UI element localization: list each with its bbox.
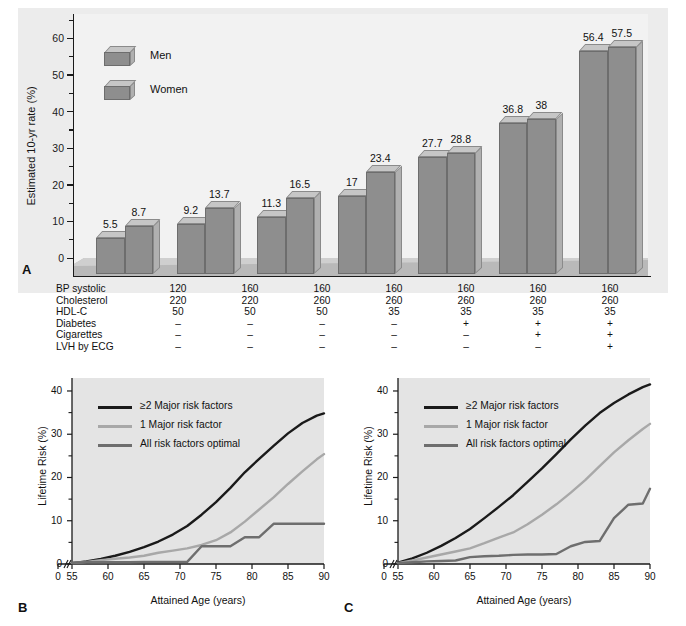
risk-factor-value: + <box>574 329 646 341</box>
table-row: BP systolic120160160160160160160 <box>56 283 646 295</box>
panel-a-y-axis-title: Estimated 10-yr rate (%) <box>25 51 37 241</box>
risk-factor-value: – <box>502 341 574 353</box>
bar-women-group-5 <box>447 153 476 274</box>
risk-factor-table-body: BP systolic120160160160160160160Choleste… <box>56 283 646 353</box>
risk-factor-value: 50 <box>142 306 214 318</box>
bar-value-label: 57.5 <box>602 27 643 39</box>
bar-men-group-2 <box>177 224 206 274</box>
risk-factor-value: 160 <box>430 283 502 295</box>
legend-label: All risk factors optimal <box>140 438 240 449</box>
legend-label-men: Men <box>150 49 171 61</box>
line-swatch-icon <box>98 444 132 447</box>
risk-factor-label: Cigarettes <box>56 329 142 341</box>
bar-women-group-3 <box>286 198 315 274</box>
bar-front <box>338 196 367 274</box>
y-tick-label: 30 <box>366 429 388 439</box>
bar-front <box>499 123 528 274</box>
risk-factor-value: 35 <box>430 306 502 318</box>
risk-factor-value: – <box>214 318 286 330</box>
y-tick-label: 30 <box>38 143 64 153</box>
bar-side-face <box>556 113 563 274</box>
bar-front <box>608 47 637 274</box>
x-tick-label: 75 <box>206 572 226 582</box>
risk-factor-value: – <box>430 329 502 341</box>
bar-women-group-2 <box>205 208 234 274</box>
panel-c-x-axis-title: Attained Age (years) <box>398 594 650 606</box>
legend-label: 1 Major risk factor <box>466 419 548 430</box>
risk-factor-value: – <box>358 318 430 330</box>
y-tick-label: 50 <box>38 70 64 80</box>
risk-factor-value: 260 <box>286 295 358 307</box>
legend-label: 1 Major risk factor <box>140 419 222 430</box>
y-tick-label: 0 <box>366 559 388 569</box>
bar-side-face <box>395 166 402 274</box>
risk-factor-value: – <box>142 329 214 341</box>
risk-factor-value: 160 <box>358 283 430 295</box>
risk-factor-value: – <box>358 341 430 353</box>
bar-value-label: 28.8 <box>441 133 482 145</box>
y-tick-minor <box>69 20 73 21</box>
bar-men-group-5 <box>418 157 447 274</box>
y-tick <box>67 74 73 75</box>
bar-side-face <box>475 146 482 274</box>
risk-factor-value: + <box>574 341 646 353</box>
line-swatch-icon <box>424 406 458 409</box>
risk-factor-value: 35 <box>574 306 646 318</box>
x-tick-label: 80 <box>568 572 588 582</box>
legend-label: ≥2 Major risk factors <box>140 400 233 411</box>
risk-factor-label: Cholesterol <box>56 295 142 307</box>
bar-value-label: 13.7 <box>199 188 240 200</box>
risk-factor-value: 120 <box>142 283 214 295</box>
bar-women-group-4 <box>366 172 395 274</box>
bar-swatch-icon <box>104 80 130 100</box>
legend-label-women: Women <box>150 83 188 95</box>
risk-factor-value: – <box>142 341 214 353</box>
bar-side-face <box>314 191 321 274</box>
y-tick-label: 40 <box>40 386 62 396</box>
y-tick-label: 60 <box>38 33 64 43</box>
x-tick-label: 70 <box>496 572 516 582</box>
risk-factor-value: 50 <box>286 306 358 318</box>
bar-front <box>579 51 608 274</box>
x-tick-label: 60 <box>98 572 118 582</box>
y-tick-label: 10 <box>38 216 64 226</box>
bar-men-group-6 <box>499 123 528 274</box>
risk-factor-value: + <box>502 318 574 330</box>
risk-factor-value: – <box>214 341 286 353</box>
x-tick-label: 75 <box>532 572 552 582</box>
line-swatch-icon <box>98 406 132 409</box>
risk-factor-value: 160 <box>214 283 286 295</box>
risk-factor-value: 160 <box>574 283 646 295</box>
line-swatch-icon <box>424 444 458 447</box>
y-tick <box>67 38 73 39</box>
bar-men-group-1 <box>96 238 125 274</box>
panel-letter-b: B <box>18 600 27 615</box>
bar-value-label: 8.7 <box>119 206 160 218</box>
x-tick-label: 85 <box>604 572 624 582</box>
bar-side-face <box>153 220 160 274</box>
x-tick-label: 60 <box>424 572 444 582</box>
table-row: LVH by ECG––––––+ <box>56 341 646 353</box>
panel-b-x-axis-title: Attained Age (years) <box>72 594 324 606</box>
table-row: Cholesterol220220260260260260260 <box>56 295 646 307</box>
bar-front <box>366 172 395 274</box>
risk-factor-value: 35 <box>502 306 574 318</box>
risk-factor-value: 220 <box>142 295 214 307</box>
y-tick-label: 40 <box>38 107 64 117</box>
risk-factor-value: 160 <box>502 283 574 295</box>
risk-factor-value: 260 <box>502 295 574 307</box>
x-tick-label: 70 <box>170 572 190 582</box>
y-tick-minor <box>69 239 73 240</box>
y-tick <box>67 184 73 185</box>
panel-a-y-axis <box>73 14 74 276</box>
y-tick <box>67 258 73 259</box>
x-tick-label: 90 <box>640 572 660 582</box>
y-tick-label: 0 <box>38 253 64 263</box>
y-tick-label: 20 <box>366 472 388 482</box>
bar-men-group-3 <box>257 217 286 274</box>
bar-men-group-4 <box>338 196 367 274</box>
y-tick-label: 20 <box>40 472 62 482</box>
bar-men-group-7 <box>579 51 608 274</box>
bar-front <box>418 157 447 274</box>
x-tick-label: 65 <box>134 572 154 582</box>
